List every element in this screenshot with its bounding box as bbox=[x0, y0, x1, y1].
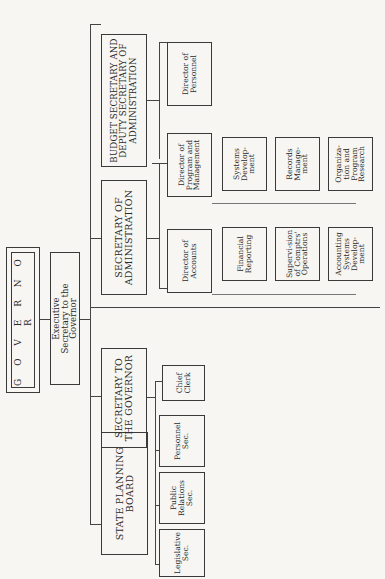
chart-right-cluster bbox=[0, 0, 385, 579]
